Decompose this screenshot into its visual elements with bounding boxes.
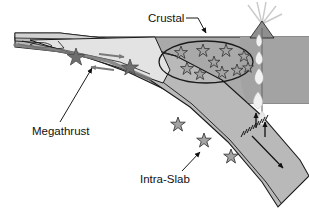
eruption-plume-icon — [248, 2, 282, 24]
slab-motion-arrow — [91, 67, 114, 70]
intraslab-leader-line — [182, 152, 200, 171]
label-megathrust: Megathrust — [32, 125, 90, 137]
diagram-canvas: Crustal Megathrust Intra-Slab — [0, 0, 309, 222]
subduction-zone-diagram: Crustal Megathrust Intra-Slab — [0, 0, 309, 222]
label-intra-slab: Intra-Slab — [140, 173, 190, 185]
label-crustal: Crustal — [148, 12, 184, 24]
intraslab-star — [171, 117, 186, 131]
crustal-leader-line — [186, 18, 206, 33]
intraslab-star — [197, 133, 212, 147]
megathrust-leader-line — [60, 68, 92, 122]
